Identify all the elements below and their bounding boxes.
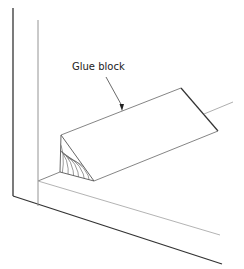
glue-block	[60, 88, 233, 181]
glue-block-label: Glue block	[72, 61, 125, 73]
joint-diagram	[0, 0, 244, 269]
end-grain-hatch	[58, 140, 95, 185]
arrowhead-icon	[120, 104, 125, 111]
outer-panel	[13, 8, 222, 264]
label-leader	[106, 77, 124, 111]
bottom-panel	[38, 172, 220, 235]
